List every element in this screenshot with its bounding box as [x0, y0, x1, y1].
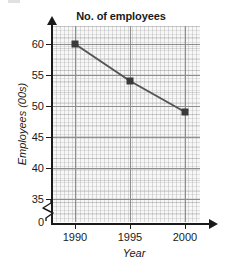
data-point-2000	[182, 109, 189, 116]
data-series-layer	[52, 26, 200, 222]
chart-screenshot: No. of employees 60 55 50 45 40 35 0	[0, 0, 226, 272]
y-tick-label-60: 60	[14, 38, 44, 50]
x-tick-1995	[130, 224, 131, 229]
x-axis-arrow-icon	[209, 219, 218, 229]
y-tick-50	[46, 106, 52, 107]
y-axis-line	[51, 24, 53, 224]
data-point-1995	[127, 78, 134, 85]
x-tick-label-1995: 1995	[108, 231, 152, 243]
x-tick-2000	[185, 224, 186, 229]
y-tick-45	[46, 137, 52, 138]
y-tick-40	[46, 168, 52, 169]
y-axis-title: Employees (00s)	[16, 54, 28, 194]
x-tick-label-2000: 2000	[163, 231, 207, 243]
y-tick-60	[46, 44, 52, 45]
chart-title: No. of employees	[56, 10, 186, 22]
y-axis-break-icon	[40, 199, 58, 221]
scan-artifact-speck	[8, 0, 20, 3]
x-tick-1990	[75, 224, 76, 229]
y-tick-55	[46, 75, 52, 76]
y-axis-arrow-icon	[47, 16, 57, 25]
x-axis-title: Year	[104, 247, 164, 259]
x-tick-label-1990: 1990	[53, 231, 97, 243]
data-point-1990	[72, 41, 79, 48]
